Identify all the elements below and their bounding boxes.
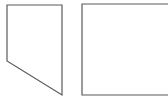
right-rectangle-shape: [82, 4, 168, 95]
left-pentagon-shape: [7, 5, 62, 95]
diagram-canvas: [0, 0, 168, 97]
